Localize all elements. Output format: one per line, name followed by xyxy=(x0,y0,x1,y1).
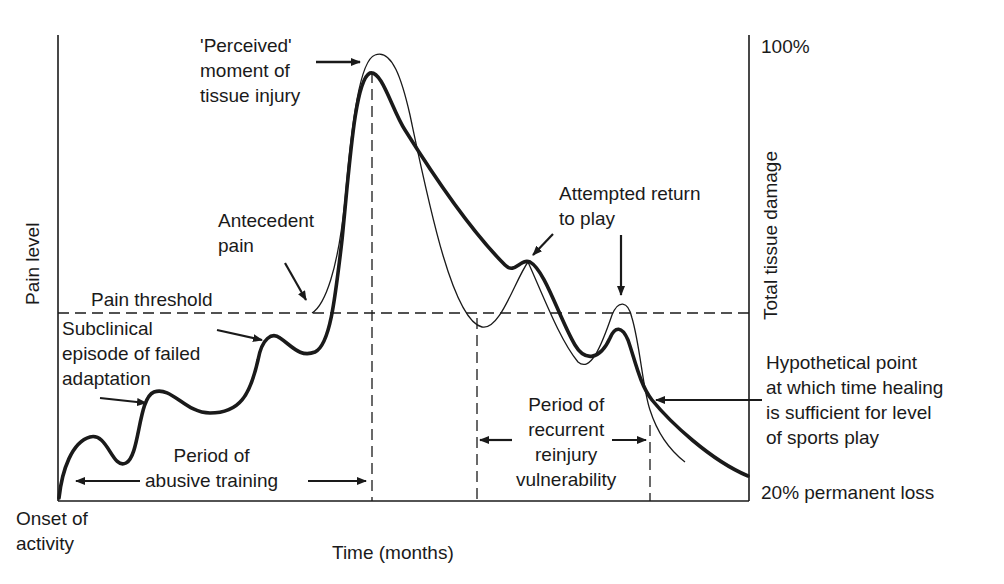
pain-threshold-label: Pain threshold xyxy=(91,287,212,312)
y-axis-left-label: Pain level xyxy=(22,223,44,305)
tissue-damage-curve xyxy=(59,73,748,498)
attempted-return-arrow-1 xyxy=(533,234,553,255)
abusive-training-annotation: Period of abusive training xyxy=(145,443,278,493)
perceived-injury-annotation: 'Perceived' moment of tissue injury xyxy=(200,33,300,108)
subclinical-arrow-upper xyxy=(217,330,262,340)
x-axis-label: Time (months) xyxy=(332,540,454,565)
y-right-bottom-label: 20% permanent loss xyxy=(761,480,934,505)
origin-label: Onset of activity xyxy=(16,506,88,556)
y-right-top-label: 100% xyxy=(761,34,810,59)
hypothetical-point-annotation: Hypothetical point at which time healing… xyxy=(766,350,943,450)
antecedent-pain-arrow xyxy=(285,263,306,300)
antecedent-pain-annotation: Antecedent pain xyxy=(218,208,314,258)
attempted-return-annotation: Attempted return to play xyxy=(559,181,701,231)
recurrent-reinjury-annotation: Period of recurrent reinjury vulnerabili… xyxy=(516,392,616,492)
subclinical-annotation: Subclinical episode of failed adaptation xyxy=(62,316,200,391)
y-axis-right-label: Total tissue damage xyxy=(760,151,782,320)
subclinical-arrow-lower xyxy=(100,398,146,403)
